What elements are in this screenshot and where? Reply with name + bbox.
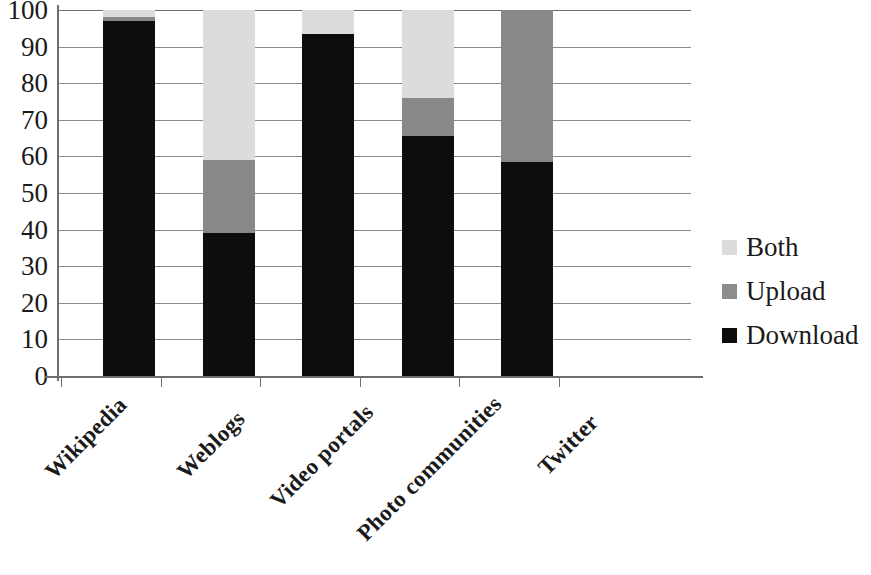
x-axis-line — [45, 376, 703, 378]
legend-item-both: Both — [722, 225, 871, 269]
y-axis-tick-label: 10 — [21, 326, 48, 353]
category-label-video-portals: Video portals — [265, 399, 379, 513]
y-axis-tick-label: 70 — [21, 106, 48, 133]
y-axis-tick-label: 20 — [21, 289, 48, 316]
x-axis-tick — [360, 376, 361, 387]
legend-item-upload: Upload — [722, 269, 871, 313]
bar-segment-upload — [103, 17, 155, 21]
bar-segment-upload — [501, 10, 553, 162]
bar-segment-both — [203, 10, 255, 160]
x-axis-tick — [559, 376, 560, 387]
bar-segment-download — [302, 34, 354, 376]
legend-swatch-upload-icon — [722, 284, 737, 299]
category-label-wikipedia: Wikipedia — [40, 392, 132, 484]
legend-label-upload: Upload — [746, 278, 825, 305]
bar-twitter — [501, 10, 553, 376]
plot-area — [57, 10, 691, 376]
bar-photo-communities — [402, 10, 454, 376]
bar-segment-download — [203, 233, 255, 376]
bar-video-portals — [302, 10, 354, 376]
y-axis-tick-label: 40 — [21, 216, 48, 243]
stacked-bar-chart: 1009080706050403020100 WikipediaWeblogsV… — [0, 0, 871, 575]
x-axis-tick — [161, 376, 162, 387]
bar-segment-both — [302, 10, 354, 34]
category-label-weblogs: Weblogs — [172, 406, 251, 485]
bar-segment-download — [501, 162, 553, 376]
y-axis-line — [57, 5, 59, 381]
y-axis-labels: 1009080706050403020100 — [0, 0, 52, 386]
bar-segment-both — [103, 10, 155, 17]
bar-segment-upload — [402, 98, 454, 136]
bar-segment-download — [103, 21, 155, 376]
x-axis-tick — [260, 376, 261, 387]
legend-swatch-download-icon — [722, 328, 737, 343]
y-axis-tick-label: 60 — [21, 143, 48, 170]
y-axis-tick-label: 90 — [21, 33, 48, 60]
bar-wikipedia — [103, 10, 155, 376]
chart-legend: Both Upload Download — [722, 225, 871, 357]
category-label-twitter: Twitter — [533, 409, 604, 480]
x-axis-tick — [61, 376, 62, 387]
x-axis-tick — [459, 376, 460, 387]
bar-segment-upload — [203, 160, 255, 233]
bar-segment-both — [402, 10, 454, 98]
y-axis-tick-label: 30 — [21, 253, 48, 280]
legend-swatch-both-icon — [722, 240, 737, 255]
bar-segment-download — [402, 136, 454, 376]
legend-label-download: Download — [746, 322, 858, 349]
legend-item-download: Download — [722, 313, 871, 357]
y-axis-tick-label: 100 — [8, 0, 49, 24]
y-axis-tick-label: 50 — [21, 180, 48, 207]
legend-label-both: Both — [746, 234, 799, 261]
bar-weblogs — [203, 10, 255, 376]
y-axis-tick-label: 80 — [21, 70, 48, 97]
